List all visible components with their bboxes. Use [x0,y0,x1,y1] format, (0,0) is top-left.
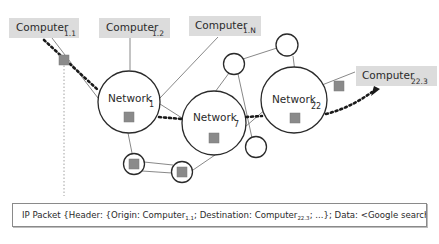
computer-22-3-label: Computer [362,69,415,81]
packet-dest-sub: 22.3 [297,215,309,221]
computer-22-3: Computer 22.3 [356,66,437,86]
small-node [276,34,298,56]
computer-22-3-sub: 22.3 [411,77,428,86]
packet-marker [177,167,187,177]
network-1: Network 1 [98,71,160,133]
computer-1-1-label: Computer [16,21,69,33]
computer-1-1-sub: 1.1 [64,29,76,38]
computer-1-2: Computer 1.2 [99,18,170,38]
computer-1-1: Computer 1.1 [9,18,79,38]
computer-1-n-sub: 1.N [243,26,256,35]
network-7-sub: 7 [234,120,239,129]
network-7-label: Network [193,111,238,123]
small-node [224,54,245,75]
computer-1-n: Computer 1.N [189,16,261,36]
packet-marker [129,159,139,169]
network-22-sub: 22 [311,102,321,111]
computer-1-n-label: Computer [195,19,248,31]
packet-origin-sub: 1.1 [185,215,194,221]
packet-marker [59,55,69,65]
computer-1-2-sub: 1.2 [152,29,164,38]
packet-marker [334,81,344,91]
network-1-sub: 1 [149,100,154,109]
packet-prefix: IP Packet {Header: {Origin: Computer [22,210,185,220]
network-22: Network 22 [261,67,327,133]
packet-marker [124,112,134,122]
network-1-label: Network [108,92,153,104]
small-node [246,137,267,158]
packet-suffix: ; ...}; Data: <Google search results>} [310,210,427,220]
packet-marker [290,113,300,123]
packet-middle: ; Destination: Computer [194,210,297,220]
computer-1-2-label: Computer [106,21,159,33]
ip-packet-description: IP Packet {Header: {Origin: Computer1.1;… [12,203,427,227]
network-7: Network 7 [182,91,246,155]
packet-marker [209,133,219,143]
